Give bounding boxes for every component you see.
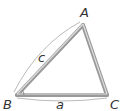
side-a-label: a	[56, 97, 64, 111]
side-c-arc	[14, 22, 80, 92]
vertex-c-label: C	[110, 97, 120, 111]
vertex-b-label: B	[3, 97, 12, 111]
vertex-a-label: A	[79, 5, 89, 20]
triangle-edges	[17, 24, 107, 95]
triangle-diagram: A B C c a	[0, 0, 123, 111]
side-c-label: c	[38, 50, 45, 65]
